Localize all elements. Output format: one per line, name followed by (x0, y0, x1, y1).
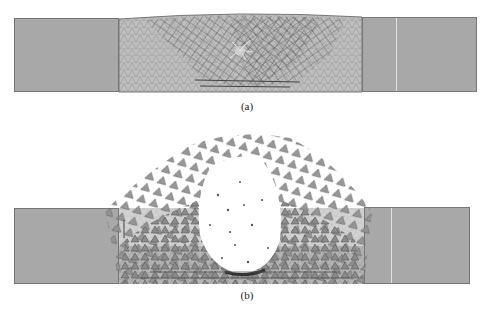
caption-b: (b) (227, 289, 267, 301)
figure: (a) (0, 0, 494, 311)
fragment-region-b (0, 0, 494, 311)
